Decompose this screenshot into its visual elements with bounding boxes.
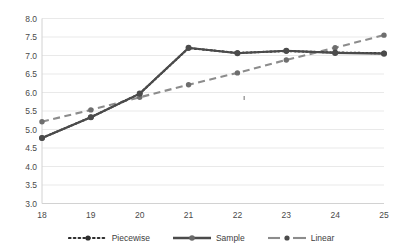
y-tick-label: 7.5 — [25, 32, 37, 42]
y-axis-labels: 8.07.57.06.56.05.55.04.54.03.53.0 — [25, 14, 37, 209]
data-point — [88, 114, 94, 120]
data-point — [186, 45, 192, 51]
x-axis-labels: 1819202122232425 — [37, 210, 389, 220]
x-tick-label: 18 — [37, 210, 47, 220]
series-piecewise — [39, 45, 386, 140]
x-tick-label: 22 — [233, 210, 243, 220]
legend-label-sample: Sample — [216, 233, 245, 243]
data-point — [332, 50, 338, 56]
legend-item-linear[interactable]: Linear — [267, 233, 335, 243]
y-tick-label: 3.5 — [25, 180, 37, 190]
stray-speck — [244, 96, 245, 100]
y-tick-label: 5.5 — [25, 106, 37, 116]
chart-legend: Piecewise Sample Linear — [0, 228, 402, 248]
data-point — [186, 82, 191, 87]
y-tick-label: 4.0 — [25, 162, 37, 172]
data-point — [283, 48, 289, 54]
data-point — [137, 91, 143, 97]
data-point — [234, 50, 240, 56]
series-line — [42, 48, 384, 138]
x-tick-label: 25 — [379, 210, 389, 220]
legend-item-piecewise[interactable]: Piecewise — [68, 233, 150, 243]
line-chart: 8.07.57.06.56.05.55.04.54.03.53.0 181920… — [0, 0, 402, 252]
data-point — [39, 119, 44, 124]
data-point — [381, 51, 387, 57]
y-tick-label: 3.0 — [25, 199, 37, 209]
linear-swatch-icon — [267, 233, 307, 243]
x-tick-label: 19 — [86, 210, 96, 220]
y-tick-label: 5.0 — [25, 125, 37, 135]
y-tick-label: 4.5 — [25, 143, 37, 153]
data-point — [284, 57, 289, 62]
x-tick-label: 21 — [184, 210, 194, 220]
y-tick-label: 7.0 — [25, 51, 37, 61]
y-tick-label: 6.5 — [25, 69, 37, 79]
y-tick-label: 6.0 — [25, 88, 37, 98]
x-tick-label: 23 — [282, 210, 292, 220]
piecewise-swatch-icon — [68, 233, 108, 243]
sample-swatch-icon — [172, 233, 212, 243]
legend-label-piecewise: Piecewise — [112, 233, 150, 243]
data-point — [39, 135, 45, 141]
data-point — [88, 107, 93, 112]
data-point — [235, 70, 240, 75]
legend-item-sample[interactable]: Sample — [172, 233, 245, 243]
legend-label-linear: Linear — [311, 233, 335, 243]
data-point — [381, 32, 386, 37]
x-tick-label: 20 — [135, 210, 145, 220]
chart-plot-area: 8.07.57.06.56.05.55.04.54.03.53.0 181920… — [0, 0, 402, 252]
y-tick-label: 8.0 — [25, 14, 37, 24]
x-tick-label: 24 — [330, 210, 340, 220]
data-point — [332, 45, 337, 50]
